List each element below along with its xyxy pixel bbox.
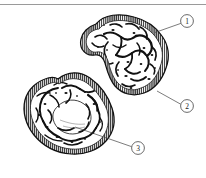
callout-3-number: 3 (136, 144, 140, 153)
figure-illustration: 1 2 3 (0, 0, 206, 178)
lower-cross-section (18, 65, 118, 160)
leader-line-1 (155, 23, 181, 32)
callout-1[interactable]: 1 (181, 15, 194, 28)
illustration-page: 1 2 3 (0, 0, 206, 178)
leader-line-2 (157, 91, 181, 104)
callout-3[interactable]: 3 (132, 142, 145, 155)
callout-1-number: 1 (185, 17, 189, 26)
callout-2[interactable]: 2 (181, 100, 194, 113)
callout-2-number: 2 (185, 102, 189, 111)
